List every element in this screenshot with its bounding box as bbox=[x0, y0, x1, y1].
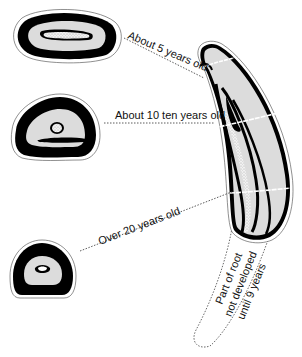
label-about-5-years: About 5 years old bbox=[126, 29, 210, 74]
tooth-longitudinal-section bbox=[198, 41, 293, 243]
label-root-not-developed: Part of root not developed until 9 years bbox=[210, 245, 271, 323]
label-over-20-years: Over 20 years old bbox=[96, 205, 181, 247]
label-about-10-years: About 10 ten years old bbox=[115, 109, 225, 121]
cross-section-5-years bbox=[14, 9, 122, 62]
cross-section-20-years bbox=[10, 240, 76, 298]
cross-section-10-years bbox=[11, 94, 100, 161]
tooth-age-diagram: About 5 years old About 10 ten years old… bbox=[0, 0, 302, 357]
